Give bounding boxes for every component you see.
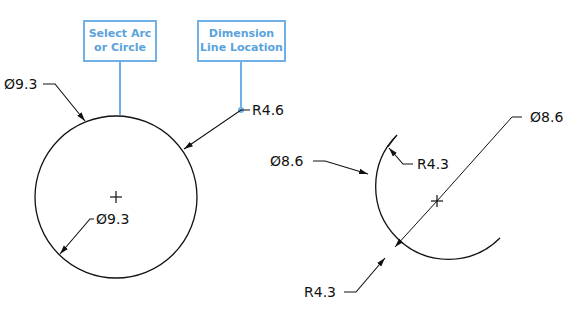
select-callout-line2: or Circle [85, 41, 155, 55]
outer-diameter-leader [43, 84, 85, 121]
arc-top-radius-label[interactable]: R4.3 [417, 156, 449, 172]
location-callout-line1: Dimension [199, 27, 284, 41]
inner-diameter-leader [60, 219, 94, 254]
arc-bottom-radius-label[interactable]: R4.3 [304, 284, 336, 300]
left-center-mark [110, 191, 122, 203]
arc-top-radius-leader [389, 148, 413, 164]
left-radius-label[interactable]: R4.6 [252, 102, 284, 118]
select-arc-callout: Select Arc or Circle [83, 20, 157, 62]
arc-top-extension [388, 135, 397, 147]
arc-left-diameter-label[interactable]: Ø8.6 [270, 153, 303, 169]
arc-left-diameter-leader [313, 161, 368, 174]
location-callout-line2: Line Location [199, 41, 284, 55]
left-inner-diameter-label[interactable]: Ø9.3 [96, 211, 129, 227]
select-callout-line1: Select Arc [85, 27, 155, 41]
left-outer-diameter-label[interactable]: Ø9.3 [4, 76, 37, 92]
dimension-location-callout: Dimension Line Location [197, 20, 286, 62]
radius-leader [184, 110, 250, 149]
arc-diameter-line [395, 117, 522, 247]
arc-right-diameter-label[interactable]: Ø8.6 [530, 109, 563, 125]
arc-bottom-radius-leader [344, 258, 385, 292]
